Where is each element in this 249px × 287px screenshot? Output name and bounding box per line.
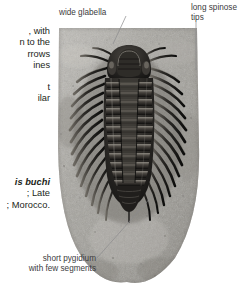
- body-line: ilar: [0, 93, 50, 104]
- callout-pygidium-line2: with few segments: [29, 264, 96, 273]
- species-caption: is buchi ; Late ; Morocco.: [0, 177, 50, 211]
- callout-long-spinose-tips: long spinose tips: [191, 3, 249, 22]
- body-copy: , with n to the rrows ines t ilar: [0, 26, 50, 116]
- figure-page: , with n to the rrows ines t ilar is buc…: [0, 0, 249, 287]
- body-line: ines: [0, 60, 50, 71]
- fossil-photo-svg: [55, 26, 203, 284]
- body-line: n to the: [0, 37, 50, 48]
- callout-short-pygidium: short pygidium with few segments: [2, 254, 96, 273]
- species-name: is buchi: [0, 177, 50, 188]
- fossil-photograph: [55, 26, 203, 284]
- body-paragraph-1: , with n to the rrows ines: [0, 26, 50, 71]
- caption-line: ; Morocco.: [0, 200, 50, 211]
- body-line: rrows: [0, 49, 50, 60]
- callout-pygidium-line1: short pygidium: [43, 254, 96, 263]
- callout-wide-glabella: wide glabella: [59, 8, 106, 18]
- caption-line: ; Late: [0, 188, 50, 199]
- body-paragraph-2: t ilar: [0, 82, 50, 105]
- body-line: , with: [0, 26, 50, 37]
- body-line: t: [0, 82, 50, 93]
